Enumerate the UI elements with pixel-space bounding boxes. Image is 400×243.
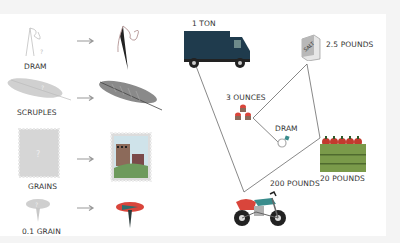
- dram-ring-label: DRAM: [275, 124, 298, 133]
- three-ounces-label: 3 OUNCES: [226, 93, 266, 102]
- apple-crate-icon: [320, 136, 368, 172]
- one-ton-label: 1 TON: [192, 19, 216, 28]
- two-hundred-pounds-label: 200 POUNDS: [270, 179, 320, 188]
- cupcakes-icon: [233, 104, 253, 122]
- truck-icon: [182, 29, 252, 69]
- ring-icon: [277, 134, 291, 148]
- twenty-pounds-label: 20 POUNDS: [320, 174, 365, 183]
- two-half-pounds-label: 2.5 POUNDS: [326, 40, 373, 49]
- salt-box-icon: SALT: [300, 33, 322, 61]
- motorcycle-icon: [232, 188, 288, 228]
